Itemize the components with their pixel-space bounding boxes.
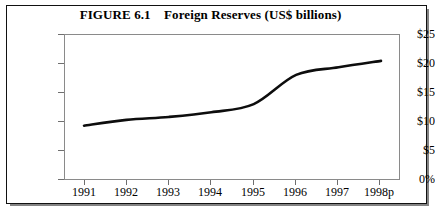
- y-tick-mark-0: [58, 179, 64, 180]
- y-tick-mark-15: [58, 92, 64, 93]
- y-tick-mark-25: [58, 34, 64, 35]
- y-tick-label-5: $5: [391, 144, 435, 156]
- x-tick-label-1998p: 1998p: [352, 186, 406, 198]
- y-tick-label-10: $10: [391, 115, 435, 127]
- y-tick-label-25: $25: [391, 28, 435, 40]
- y-tick-mark-10: [58, 121, 64, 122]
- chart-container: FIGURE 6.1 Foreign Reserves (US$ billion…: [0, 0, 435, 215]
- figure-title: FIGURE 6.1 Foreign Reserves (US$ billion…: [0, 7, 421, 23]
- y-tick-label-0: 0%: [391, 173, 435, 185]
- y-tick-label-15: $15: [391, 86, 435, 98]
- reserves-line-series: [64, 34, 400, 180]
- y-tick-mark-20: [58, 63, 64, 64]
- y-tick-label-20: $20: [391, 57, 435, 69]
- reserves-line-path: [84, 61, 381, 126]
- y-tick-mark-5: [58, 150, 64, 151]
